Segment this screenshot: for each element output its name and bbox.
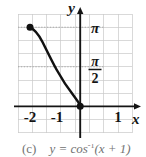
graph-figure: y x -2 -1 1 π π 2 — [0, 0, 146, 157]
y-tick-label-pi: π — [91, 20, 100, 36]
caption-argument: (x + 1) — [94, 144, 130, 156]
x-tick-label-pos1: 1 — [114, 109, 122, 125]
y-axis-label: y — [66, 0, 75, 16]
x-axis-label: x — [131, 111, 140, 127]
caption-prefix: (c) — [22, 144, 36, 156]
caption-strip: (c) y = cos-1(x + 1) — [0, 144, 146, 157]
pi-over-2-numerator: π — [91, 54, 99, 69]
caption-text: (c) y = cos-1(x + 1) — [22, 144, 131, 157]
caption-equation: y = cos — [49, 144, 87, 156]
endpoint-origin-point — [77, 103, 84, 110]
endpoint-left-point — [27, 24, 34, 31]
figure-background — [0, 0, 146, 157]
x-tick-label-neg1: -1 — [51, 109, 64, 125]
x-tick-label-neg2: -2 — [24, 109, 37, 125]
pi-over-2-denominator: 2 — [92, 71, 99, 86]
